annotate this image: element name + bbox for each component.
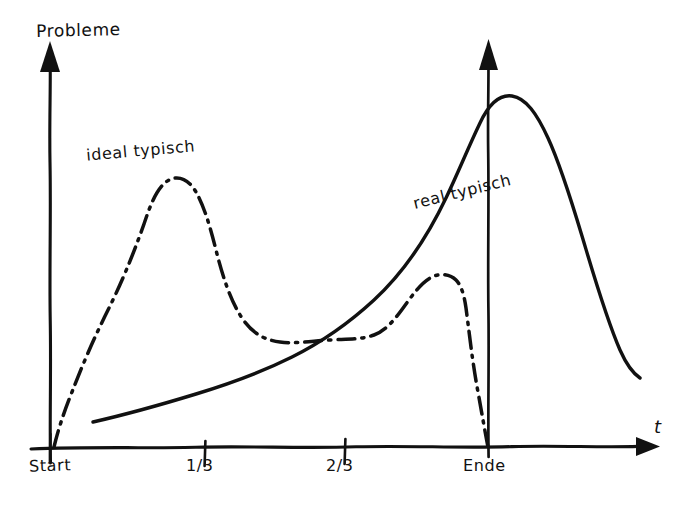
x-axis-arrow-icon — [636, 437, 660, 456]
ende-marker-arrow-icon — [479, 39, 498, 70]
x-axis-label: t — [654, 416, 662, 437]
x-tick-label-start: Start — [29, 455, 72, 475]
x-tick-label-one-third: 1/3 — [186, 456, 214, 475]
sketch-chart-figure: Probleme t Start 1/3 2/3 Ende ideal typi… — [0, 0, 684, 510]
x-axis-line — [31, 446, 638, 449]
ende-marker-line — [488, 58, 489, 457]
x-tick-label-two-thirds: 2/3 — [326, 456, 354, 475]
curve-ideal-typisch — [54, 178, 488, 447]
x-tick-label-ende: Ende — [463, 456, 506, 475]
chart-canvas — [0, 0, 684, 510]
y-axis-arrow-icon — [40, 41, 60, 72]
y-axis-line — [50, 62, 51, 463]
y-axis-label: Probleme — [36, 19, 121, 41]
